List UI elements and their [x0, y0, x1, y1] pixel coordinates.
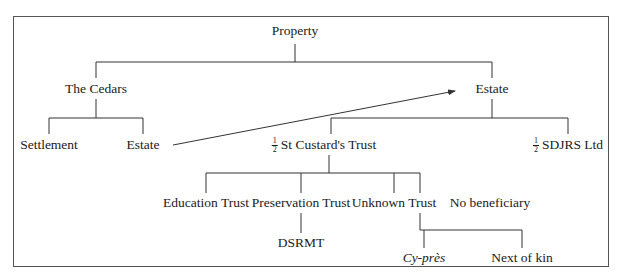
node-estate-right: Estate: [476, 81, 509, 97]
node-education-trust: Education Trust: [163, 195, 249, 211]
node-estate-left: Estate: [127, 137, 160, 153]
st-custards-label: St Custard's Trust: [281, 137, 376, 152]
node-cy-pres: Cy-près: [403, 250, 446, 266]
node-unknown-trust: Unknown Trust: [352, 195, 436, 211]
node-no-beneficiary: No beneficiary: [450, 195, 531, 211]
node-sdjrs-ltd: 12SDJRS Ltd: [533, 137, 603, 154]
half-fraction: 12: [533, 137, 539, 154]
node-settlement: Settlement: [20, 137, 78, 153]
node-dsrmt: DSRMT: [278, 235, 325, 251]
node-next-of-kin: Next of kin: [491, 250, 553, 266]
node-preservation-trust: Preservation Trust: [252, 195, 351, 211]
half-fraction: 12: [272, 137, 278, 154]
node-st-custards-trust: 12St Custard's Trust: [272, 137, 376, 154]
node-the-cedars: The Cedars: [65, 81, 127, 97]
sdjrs-label: SDJRS Ltd: [542, 137, 603, 152]
node-property: Property: [272, 23, 319, 39]
